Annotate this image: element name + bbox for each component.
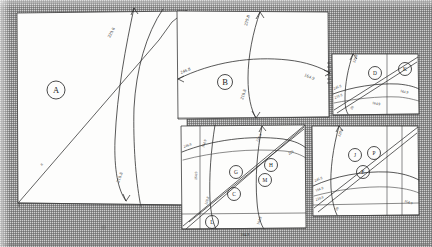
- panel-a-marker-label: A: [53, 85, 60, 95]
- panel-l-marker-label: L: [210, 219, 213, 225]
- panel-d-marker-label: D: [373, 70, 377, 76]
- panel-m-marker-label: M: [263, 177, 268, 183]
- panel-a: A 229.8 8 218.8: [17, 8, 188, 207]
- panel-b: B 246.8 229.8 164.9 218.8: [177, 11, 331, 119]
- panel-ghmc: G C H M L 246.8 164.9 164.9 229.8 229: [181, 125, 306, 229]
- drawing-overlay: A 229.8 8 218.8 B 24: [0, 0, 432, 247]
- panel-k-marker-label: K: [403, 66, 407, 72]
- panel-c-marker-label: C: [232, 191, 236, 197]
- panel-jpe: J P E 229.8 246.8 164.9 218.8 28 164.9: [312, 126, 419, 216]
- panel-j-marker-label: J: [354, 152, 356, 158]
- sheet-bottom-label: 164.9: [241, 233, 249, 237]
- panel-b-marker-label: B: [222, 77, 228, 87]
- scanned-sheet: A 229.8 8 218.8 B 24: [0, 0, 432, 247]
- panel-dk: D K 229.8 246.8 218.8 164.9 164.9 28: [332, 54, 419, 115]
- panel-g-marker-label: G: [234, 169, 238, 175]
- panel-ghmc-label-v2: 164.9: [194, 171, 198, 180]
- panel-p-marker-label: P: [373, 150, 376, 156]
- panel-h-marker-label: H: [269, 162, 273, 168]
